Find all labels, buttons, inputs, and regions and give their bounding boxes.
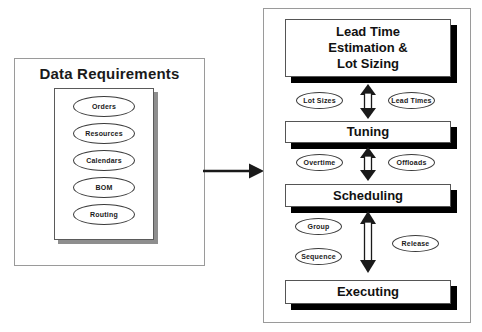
data-item-routing[interactable]: Routing bbox=[73, 204, 135, 225]
stage-label-group: Lead Time Estimation & Lot Sizing bbox=[285, 19, 451, 77]
double-arrow-tuning-to-scheduling-icon bbox=[358, 147, 378, 181]
data-item-bom[interactable]: BOM bbox=[73, 177, 135, 198]
data-item-label: Calendars bbox=[86, 157, 122, 164]
page-title: Data Requirements bbox=[15, 65, 204, 82]
stage-label-line-3: Lot Sizing bbox=[337, 56, 399, 72]
connector-label-text: Sequence bbox=[301, 253, 336, 260]
connector-label-overtime[interactable]: Overtime bbox=[296, 154, 343, 171]
connector-label-text: Offloads bbox=[397, 159, 427, 166]
data-item-label: Routing bbox=[90, 211, 118, 218]
stage-lead-time-estimation[interactable]: Lead Time Estimation & Lot Sizing bbox=[285, 19, 451, 77]
data-item-orders[interactable]: Orders bbox=[73, 96, 135, 117]
stage-tuning[interactable]: Tuning bbox=[285, 121, 451, 143]
double-arrow-scheduling-to-executing-icon bbox=[358, 211, 378, 273]
connector-label-text: Overtime bbox=[304, 159, 336, 166]
connector-label-sequence[interactable]: Sequence bbox=[295, 248, 342, 265]
connector-label-text: Lead Times bbox=[391, 97, 431, 104]
stage-label-group: Tuning bbox=[285, 121, 451, 143]
connector-label-lead-times[interactable]: Lead Times bbox=[388, 92, 435, 109]
double-arrow-lead-to-tuning-icon bbox=[358, 84, 378, 119]
connector-label-text: Group bbox=[308, 223, 330, 230]
stage-label-line-1: Scheduling bbox=[333, 188, 403, 204]
stage-label-line-2: Estimation & bbox=[328, 40, 407, 56]
connector-label-group[interactable]: Group bbox=[295, 218, 342, 235]
diagram-canvas: Data Requirements Orders Resources Calen… bbox=[0, 0, 482, 332]
feeds-into-arrow-icon bbox=[203, 160, 265, 182]
data-item-calendars[interactable]: Calendars bbox=[73, 150, 135, 171]
connector-label-lot-sizes[interactable]: Lot Sizes bbox=[296, 92, 343, 109]
stage-label-line-1: Lead Time bbox=[336, 24, 400, 40]
stage-label-group: Scheduling bbox=[285, 184, 451, 207]
data-item-label: Resources bbox=[85, 130, 123, 137]
stage-scheduling[interactable]: Scheduling bbox=[285, 184, 451, 207]
data-item-resources[interactable]: Resources bbox=[73, 123, 135, 144]
stage-executing[interactable]: Executing bbox=[285, 280, 451, 304]
connector-label-offloads[interactable]: Offloads bbox=[388, 154, 435, 171]
connector-label-text: Release bbox=[402, 240, 430, 247]
stage-label-line-1: Executing bbox=[337, 284, 399, 300]
connector-label-release[interactable]: Release bbox=[392, 235, 439, 252]
stage-label-line-1: Tuning bbox=[347, 124, 389, 140]
data-item-label: BOM bbox=[96, 184, 113, 191]
stage-label-group: Executing bbox=[285, 280, 451, 304]
connector-label-text: Lot Sizes bbox=[303, 97, 336, 104]
data-item-label: Orders bbox=[92, 103, 116, 110]
